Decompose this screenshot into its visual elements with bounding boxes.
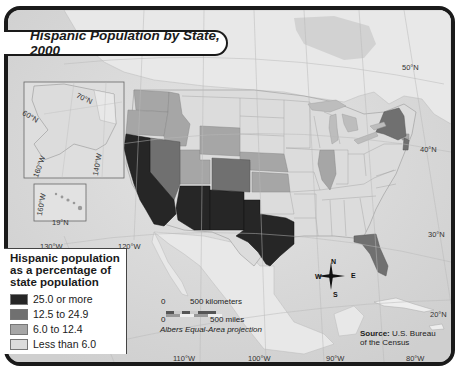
label-hawaii-19n: 19°N xyxy=(52,218,69,227)
swatch-tier3 xyxy=(10,324,28,335)
source-line2: of the Census xyxy=(360,338,409,347)
state-colorado xyxy=(212,158,250,192)
map-title: Hispanic Population by State, 2000 xyxy=(30,28,226,58)
legend-title: Hispanic population as a percentage of s… xyxy=(10,252,120,288)
compass-e: E xyxy=(351,272,356,279)
state-new-mexico xyxy=(210,190,244,230)
label-lon-110w: 110°W xyxy=(173,354,195,363)
source-label: Source: xyxy=(360,329,390,338)
swatch-tier4 xyxy=(10,339,28,350)
legend-item-tier3: 6.0 to 12.4 xyxy=(10,322,120,336)
state-oregon xyxy=(126,110,168,136)
legend-item-tier1: 25.0 or more xyxy=(10,292,120,306)
legend: Hispanic population as a percentage of s… xyxy=(4,248,127,354)
compass-n: N xyxy=(331,258,336,265)
label-lon-100w: 100°W xyxy=(248,354,271,363)
swatch-tier1 xyxy=(10,294,28,305)
state-washington xyxy=(134,90,169,112)
legend-item-tier2: 12.5 to 24.9 xyxy=(10,307,120,321)
state-wyoming xyxy=(200,126,240,156)
legend-label-tier3: 6.0 to 12.4 xyxy=(33,323,83,335)
compass-s: S xyxy=(333,291,338,298)
compass-w: W xyxy=(315,273,322,280)
legend-item-tier4: Less than 6.0 xyxy=(10,337,120,351)
map-title-box: Hispanic Population by State, 2000 xyxy=(4,30,228,56)
source-credit: Source: U.S. Bureau of the Census xyxy=(360,329,436,347)
label-lon-90w: 90°W xyxy=(326,354,344,363)
legend-label-tier2: 12.5 to 24.9 xyxy=(33,308,88,320)
scale-mi-label: 500 miles xyxy=(210,315,244,324)
legend-title-line3: state population xyxy=(10,276,120,288)
scale-km-label: 500 kilometers xyxy=(190,297,242,306)
label-lon-80w: 80°W xyxy=(406,354,424,363)
label-lat-50n: 50°N xyxy=(402,63,419,72)
swatch-tier2 xyxy=(10,309,28,320)
label-lat-30n: 30°N xyxy=(428,230,445,239)
label-lat-20n: 20°N xyxy=(430,310,447,319)
legend-title-line2: as a percentage of xyxy=(10,264,120,276)
state-kansas xyxy=(252,172,290,192)
source-line1: U.S. Bureau xyxy=(392,329,436,338)
scale-mi-zero: 0 xyxy=(161,315,165,324)
legend-label-tier1: 25.0 or more xyxy=(33,293,93,305)
legend-title-line1: Hispanic population xyxy=(10,252,120,264)
label-lat-40n: 40°N xyxy=(420,145,437,154)
projection-label: Albers Equal-Area projection xyxy=(160,325,262,334)
scale-km-zero: 0 xyxy=(161,297,165,306)
legend-label-tier4: Less than 6.0 xyxy=(33,338,96,350)
